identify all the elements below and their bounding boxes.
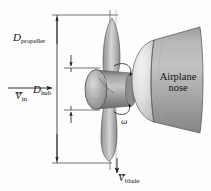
label-d-propeller-symbol: D (13, 31, 21, 43)
label-v-in: Vin (15, 90, 27, 103)
label-d-hub: Dhub (33, 84, 51, 97)
label-omega: ω (121, 117, 127, 126)
label-v-in-subscript: in (22, 95, 27, 103)
label-airplane-nose-line2: nose (168, 82, 187, 93)
label-d-propeller: Dpropeller (13, 32, 45, 45)
label-airplane-nose-line1: Airplane (160, 71, 197, 82)
label-airplane-nose: Airplanenose (155, 71, 201, 93)
label-d-hub-subscript: hub (41, 89, 51, 97)
label-v-blade-symbol: V (118, 171, 125, 183)
label-v-blade-subscript: blade (125, 177, 140, 185)
label-v-blade: Vblade (118, 172, 139, 185)
label-d-hub-symbol: D (33, 83, 41, 95)
figure-canvas (0, 0, 211, 191)
propeller-figure: Dpropeller Dhub Vin Vblade ω Airplanenos… (0, 0, 211, 191)
label-d-propeller-subscript: propeller (21, 37, 45, 45)
label-v-in-symbol: V (15, 89, 22, 101)
